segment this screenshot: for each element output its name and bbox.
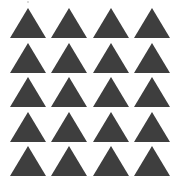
triangle-icon [93,112,129,142]
triangle-icon [93,146,129,176]
triangle-icon [51,77,87,107]
triangle-icon [51,43,87,73]
triangle-icon [93,43,129,73]
triangle-icon [51,146,87,176]
triangle-icon [10,146,46,176]
triangle-icon [93,8,129,38]
triangle-icon [134,146,170,176]
triangle-icon [10,112,46,142]
triangle-icon [51,8,87,38]
triangle-icon [10,8,46,38]
triangle-icon [51,112,87,142]
triangle-icon [134,112,170,142]
triangle-grid [0,0,174,185]
triangle-icon [134,43,170,73]
triangle-icon [134,77,170,107]
triangle-icon [10,43,46,73]
triangle-icon [10,77,46,107]
triangle-icon [134,8,170,38]
triangle-icon [93,77,129,107]
